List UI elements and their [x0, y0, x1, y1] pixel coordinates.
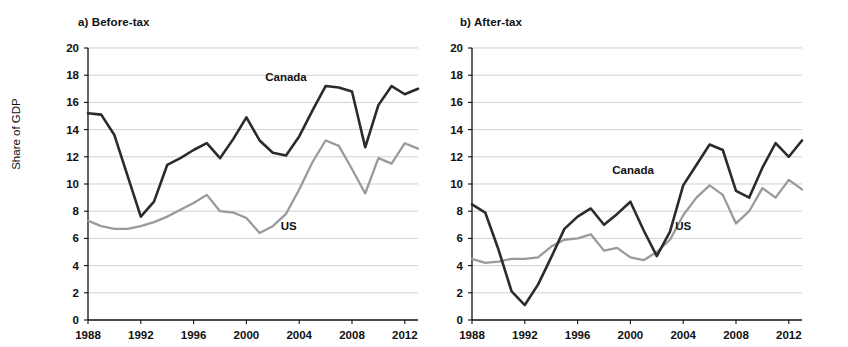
x-tick-label: 2000: [234, 329, 260, 341]
series-label-canada: Canada: [265, 71, 307, 83]
series-line-canada: [88, 86, 418, 217]
y-tick-label: 4: [457, 260, 464, 272]
y-tick-label: 10: [450, 178, 463, 190]
y-tick-label: 0: [73, 314, 79, 326]
y-tick-label: 14: [450, 124, 463, 136]
y-tick-label: 10: [66, 178, 79, 190]
y-tick-label: 8: [73, 205, 80, 217]
x-tick-label: 2012: [392, 329, 418, 341]
y-tick-label: 12: [450, 151, 463, 163]
y-tick-label: 12: [66, 151, 79, 163]
x-tick-label: 1996: [181, 329, 207, 341]
y-tick-label: 14: [66, 124, 79, 136]
y-tick-label: 16: [450, 96, 463, 108]
x-tick-label: 2008: [723, 329, 749, 341]
x-tick-label: 1992: [512, 329, 538, 341]
y-tick-label: 6: [73, 232, 79, 244]
x-tick-label: 2004: [670, 329, 696, 341]
figure-root: a) Before-tax Share of GDP 0246810121416…: [0, 0, 848, 347]
x-tick-label: 2008: [339, 329, 365, 341]
y-tick-label: 20: [450, 42, 463, 54]
y-tick-label: 16: [66, 96, 79, 108]
series-label-canada: Canada: [612, 164, 654, 176]
y-tick-label: 18: [66, 69, 79, 81]
x-tick-label: 1992: [128, 329, 154, 341]
x-tick-label: 1988: [75, 329, 101, 341]
series-label-us: US: [281, 220, 297, 232]
series-line-us: [88, 140, 418, 232]
chart-panel-after-tax: b) After-tax 024681012141618201988199219…: [424, 0, 848, 347]
y-tick-label: 20: [66, 42, 79, 54]
x-tick-label: 2012: [776, 329, 802, 341]
x-tick-label: 2004: [286, 329, 312, 341]
plot-area-before-tax: 0246810121416182019881992199620002004200…: [0, 0, 424, 347]
y-tick-label: 2: [73, 287, 79, 299]
y-tick-label: 6: [457, 232, 463, 244]
y-tick-label: 4: [73, 260, 80, 272]
y-tick-label: 0: [457, 314, 463, 326]
chart-panel-before-tax: a) Before-tax Share of GDP 0246810121416…: [0, 0, 424, 347]
x-tick-label: 2000: [618, 329, 644, 341]
x-tick-label: 1996: [565, 329, 591, 341]
y-tick-label: 18: [450, 69, 463, 81]
y-tick-label: 8: [457, 205, 464, 217]
plot-area-after-tax: 0246810121416182019881992199620002004200…: [424, 0, 848, 347]
y-tick-label: 2: [457, 287, 463, 299]
x-tick-label: 1988: [459, 329, 485, 341]
series-label-us: US: [675, 220, 691, 232]
